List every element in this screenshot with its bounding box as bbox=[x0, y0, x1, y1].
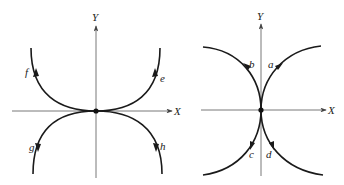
label-b: b bbox=[249, 58, 255, 70]
curve-f bbox=[31, 48, 96, 111]
curve-e bbox=[96, 48, 160, 111]
curve-h bbox=[96, 111, 162, 174]
right-diagram: X Y b a c d bbox=[201, 10, 336, 176]
label-d: d bbox=[266, 148, 272, 160]
label-g: g bbox=[29, 141, 35, 153]
label-e: e bbox=[160, 72, 165, 84]
curve-a bbox=[261, 46, 321, 110]
label-a: a bbox=[268, 58, 274, 70]
x-axis-label: X bbox=[327, 104, 336, 116]
label-h: h bbox=[160, 140, 166, 152]
figure: X Y f e g h X Y b a c d bbox=[0, 0, 344, 185]
y-axis-label: Y bbox=[257, 10, 265, 22]
left-diagram: X Y f e g h bbox=[12, 11, 182, 178]
x-axis-label: X bbox=[173, 105, 182, 117]
origin-point bbox=[93, 108, 98, 113]
label-f: f bbox=[25, 66, 30, 78]
curve-b bbox=[203, 47, 261, 110]
y-axis-label: Y bbox=[92, 11, 100, 23]
origin-point bbox=[258, 107, 263, 112]
curve-g bbox=[33, 111, 96, 174]
label-c: c bbox=[249, 148, 254, 160]
